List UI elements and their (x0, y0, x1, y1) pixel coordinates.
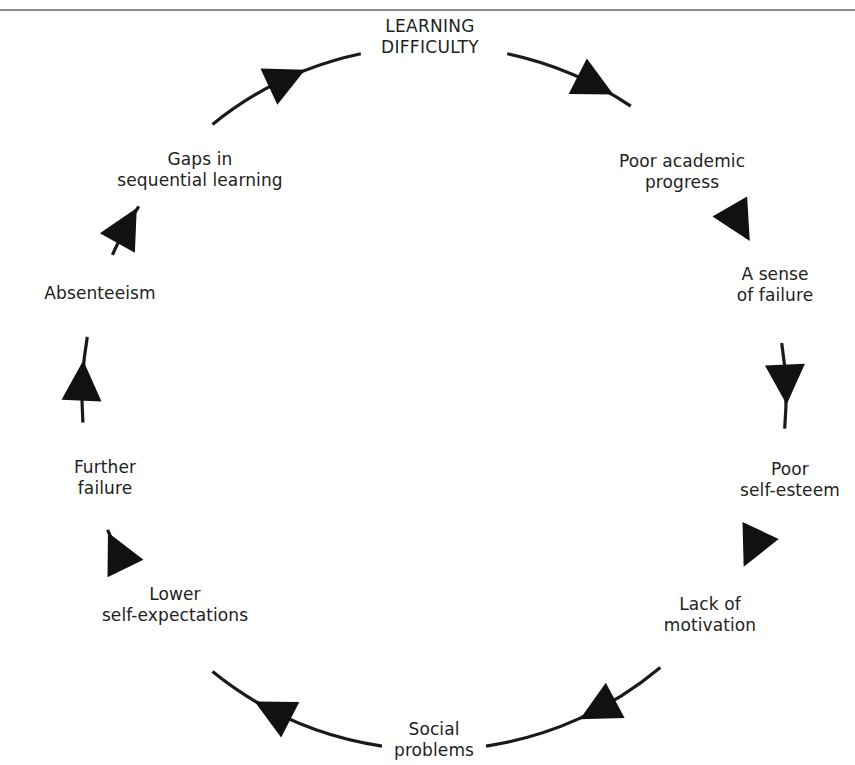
node-gaps-in-sequential-learning: Gaps in sequential learning (117, 149, 282, 191)
arrowhead-icon (260, 52, 313, 105)
node-learning-difficulty: LEARNING DIFFICULTY (381, 16, 479, 58)
node-sense-of-failure: A sense of failure (737, 264, 814, 306)
cycle-arc-segment (213, 672, 383, 747)
arrowhead-icon (765, 364, 807, 406)
cycle-arc-segment (507, 54, 631, 106)
arrowhead-icon (246, 684, 300, 738)
arrowhead-icon (712, 196, 767, 251)
arrowhead-icon (100, 198, 154, 252)
node-further-failure: Further failure (74, 457, 136, 499)
arrowhead-icon (90, 524, 143, 577)
node-poor-academic-progress: Poor academic progress (619, 151, 745, 193)
cycle-arc-segment (486, 668, 660, 747)
arrowhead-icon (570, 683, 624, 737)
node-social-problems: Social problems (394, 719, 474, 761)
cycle-diagram (0, 0, 855, 765)
arrowhead-icon (62, 360, 104, 402)
node-lower-self-expectations: Lower self-expectations (102, 584, 248, 626)
node-absenteeism: Absenteeism (44, 283, 155, 304)
node-lack-of-motivation: Lack of motivation (664, 594, 756, 636)
node-poor-self-esteem: Poor self-esteem (740, 459, 840, 501)
arrowhead-icon (726, 522, 779, 575)
arrowhead-icon (569, 58, 623, 112)
